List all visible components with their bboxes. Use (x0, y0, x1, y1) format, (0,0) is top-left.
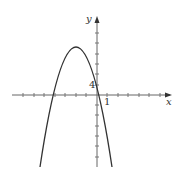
graph-figure: y x 1 4 (0, 0, 180, 177)
x-axis-label: x (166, 96, 172, 107)
parabola-curve (40, 47, 112, 167)
graph-canvas: y x 1 4 (0, 0, 180, 177)
x-axis (12, 93, 172, 98)
x-tick-label-1: 1 (104, 96, 110, 107)
y-axis (95, 16, 100, 167)
y-intercept-label: 4 (89, 79, 95, 90)
y-axis-arrow-icon (95, 16, 100, 23)
y-axis-label: y (85, 13, 92, 24)
